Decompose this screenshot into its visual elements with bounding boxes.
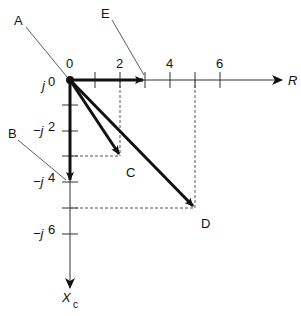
phasor-diagram: A E B C D 0 2 4 6 R j 0 −j 2 −j 4 −j 6 X… [0,0,301,316]
vectors [70,80,193,206]
xc-axis-subscript: c [73,299,78,310]
tick-r-6: 6 [216,56,223,71]
tick-x-6-n: 6 [48,222,55,237]
tick-r-4: 4 [166,56,173,71]
tick-x-2-j: −j [33,123,45,138]
label-b: B [8,126,17,141]
tick-x-2-n: 2 [48,119,55,134]
label-c: C [126,165,135,180]
label-a: A [14,13,23,28]
tick-x-4-n: 4 [48,170,55,185]
origin-dot [66,76,74,84]
tick-x-0-n: 0 [48,74,55,89]
tick-r-0: 0 [66,56,73,71]
tick-x-0-j: j [40,78,46,93]
label-e: E [101,6,110,21]
label-d: D [201,216,210,231]
vector-d [70,80,193,206]
xc-axis-label: X [61,290,72,305]
tick-r-2: 2 [116,56,123,71]
vector-c [70,80,119,154]
r-axis-label: R [288,73,297,88]
tick-x-6-j: −j [33,226,45,241]
tick-x-4-j: −j [33,174,45,189]
